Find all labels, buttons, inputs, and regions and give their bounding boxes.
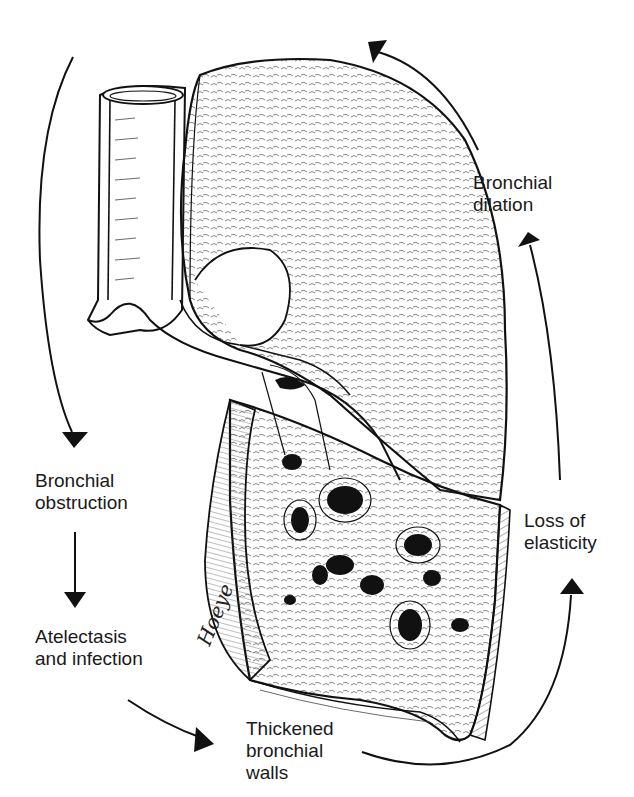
arrow-to-obstruction <box>39 57 73 432</box>
arrow-to-thickened-walls <box>128 700 202 738</box>
label-line: Atelectasis <box>35 626 143 648</box>
label-line: obstruction <box>35 492 128 514</box>
label-line: walls <box>246 762 334 784</box>
label-line: Bronchial <box>35 470 128 492</box>
label-line: dilation <box>473 194 552 216</box>
label-atelectasis-infection: Atelectasis and infection <box>35 626 143 670</box>
label-bronchial-obstruction: Bronchial obstruction <box>35 470 128 514</box>
label-line: Thickened <box>246 718 334 740</box>
label-line: Loss of <box>524 510 597 532</box>
label-thickened-bronchial-walls: Thickened bronchial walls <box>246 718 334 784</box>
label-line: and infection <box>35 648 143 670</box>
label-bronchial-dilation: Bronchial dilation <box>473 172 552 216</box>
bronchiectasis-diagram: Bronchial dilation Bronchial obstruction… <box>0 0 634 797</box>
label-line: elasticity <box>524 532 597 554</box>
label-loss-of-elasticity: Loss of elasticity <box>524 510 597 554</box>
label-line: Bronchial <box>473 172 552 194</box>
label-line: bronchial <box>246 740 334 762</box>
lung-illustration <box>0 0 634 797</box>
arrow-to-dilation <box>530 245 560 480</box>
